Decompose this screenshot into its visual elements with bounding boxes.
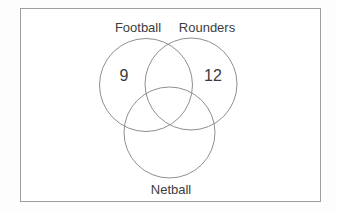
rounders-set-label: Rounders: [179, 21, 235, 34]
netball-circle: [124, 87, 215, 178]
rounders-only-value: 12: [204, 68, 222, 84]
football-set-label: Football: [115, 21, 161, 34]
football-only-value: 9: [120, 68, 129, 84]
netball-set-label: Netball: [151, 183, 191, 196]
rounders-circle: [145, 38, 237, 130]
venn-diagram: [0, 0, 337, 212]
football-circle: [100, 39, 193, 132]
